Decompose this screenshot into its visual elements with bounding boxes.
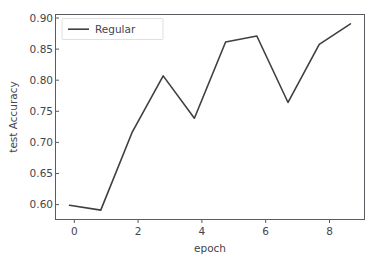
legend-label-regular: Regular	[95, 23, 136, 35]
y-tick-label: 0.75	[30, 105, 53, 117]
y-tick-label: 0.70	[30, 136, 53, 148]
x-tick-label: 4	[199, 225, 206, 237]
y-tick-label: 0.90	[30, 12, 53, 24]
chart-figure: 0.90 0.85 0.80 0.75 0.70 0.65 0.60 0	[0, 0, 380, 264]
x-tick-label: 6	[262, 225, 269, 237]
line-chart: 0.90 0.85 0.80 0.75 0.70 0.65 0.60 0	[0, 0, 380, 264]
y-tick-label: 0.65	[30, 167, 53, 179]
x-tick-label: 2	[135, 225, 142, 237]
x-tick-label: 8	[326, 225, 333, 237]
x-axis-title: epoch	[194, 242, 226, 254]
y-tick-label: 0.60	[30, 198, 53, 210]
y-axis-title: test Accuracy	[7, 81, 19, 152]
x-tick-label: 0	[71, 225, 78, 237]
y-tick-label: 0.85	[30, 43, 53, 55]
figure-background	[0, 0, 380, 264]
y-tick-label: 0.80	[30, 74, 53, 86]
legend: Regular	[62, 19, 163, 40]
